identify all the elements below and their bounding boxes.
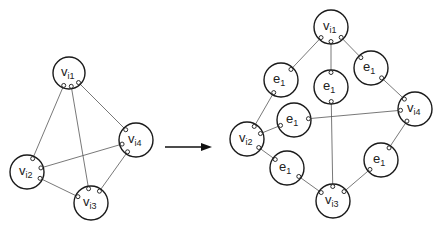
port-marker: [387, 146, 391, 150]
port-marker: [342, 190, 346, 194]
port-marker: [120, 142, 124, 146]
left-graph-edges: [34, 84, 126, 195]
port-marker: [252, 124, 256, 128]
port-marker: [306, 117, 310, 121]
port-marker: [124, 128, 128, 132]
port-marker: [31, 157, 35, 161]
right-edge-e23-r3: [301, 178, 319, 191]
port-marker: [329, 71, 333, 75]
port-marker: [297, 174, 301, 178]
left-node-v-i2: vi2: [10, 155, 44, 189]
right-node-v-i3: vi3: [316, 184, 350, 218]
port-marker: [319, 191, 323, 195]
right-edge-r1-e12: [293, 39, 320, 67]
left-graph-nodes: vi1vi2vi3vi4: [10, 57, 153, 220]
port-marker: [329, 99, 333, 103]
diagram-canvas: vi1vi2vi3vi4 vi1vi2vi3vi4e1e1e1e1e1e1: [0, 0, 441, 230]
right-edge-e13-r3: [331, 104, 332, 184]
right-edge-e14-r4: [383, 80, 402, 98]
right-edge-r2-e24: [263, 126, 278, 132]
port-marker: [329, 40, 333, 44]
right-node-e-1: e1: [277, 103, 311, 137]
port-marker: [368, 167, 372, 171]
left-edge-l1-l2: [34, 88, 63, 157]
right-node-e-1: e1: [270, 151, 304, 185]
right-edge-r3-e34: [346, 171, 368, 190]
port-marker: [289, 67, 293, 71]
port-marker: [62, 83, 66, 87]
port-marker: [39, 166, 43, 170]
right-graph-nodes: vi1vi2vi3vi4e1e1e1e1e1e1: [230, 10, 432, 218]
port-marker: [359, 56, 363, 60]
left-edge-l1-l3: [72, 89, 88, 186]
right-edge-e12-r2: [255, 95, 272, 125]
port-marker: [380, 76, 384, 80]
arrow-head-icon: [201, 143, 212, 151]
left-edge-l3-l4: [101, 154, 126, 189]
port-marker: [319, 36, 323, 40]
port-marker: [97, 189, 101, 193]
right-edge-r2-e23: [261, 149, 273, 158]
port-marker: [402, 97, 406, 101]
right-edge-e24-r4: [311, 111, 398, 119]
port-marker: [258, 132, 262, 136]
port-marker: [87, 187, 91, 191]
right-node-v-i2: vi2: [230, 122, 264, 156]
port-marker: [257, 146, 261, 150]
port-marker: [331, 185, 335, 189]
right-edge-r1-e14: [343, 39, 359, 56]
left-edge-l1-l4: [80, 84, 124, 128]
port-marker: [405, 119, 409, 123]
left-node-v-i3: vi3: [74, 186, 108, 220]
graph-transformation-diagram: vi1vi2vi3vi4 vi1vi2vi3vi4e1e1e1e1e1e1: [0, 0, 441, 230]
port-marker: [272, 91, 276, 95]
port-marker: [273, 157, 277, 161]
left-edge-l2-l3: [42, 179, 75, 195]
port-marker: [77, 81, 81, 85]
port-marker: [69, 84, 73, 88]
right-node-e-1: e1: [314, 70, 348, 104]
port-marker: [38, 176, 42, 180]
right-edge-e34-r4: [390, 123, 405, 146]
port-marker: [279, 123, 283, 127]
right-node-e-1: e1: [364, 143, 398, 177]
transformation-arrow: [165, 143, 212, 151]
port-marker: [76, 195, 80, 199]
port-marker: [126, 150, 130, 154]
port-marker: [339, 35, 343, 39]
port-marker: [399, 108, 403, 112]
